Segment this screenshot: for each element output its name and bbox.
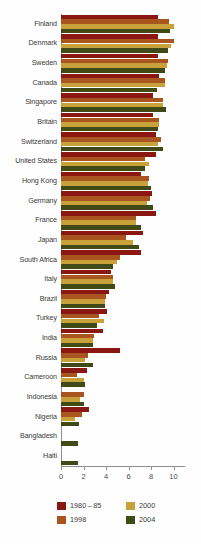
bar-group xyxy=(61,407,201,427)
x-tick xyxy=(84,466,85,470)
category-label: Switzerland xyxy=(0,138,57,146)
bar-row: Brazil xyxy=(0,289,201,309)
bar-2004 xyxy=(61,186,151,191)
bar-group xyxy=(61,387,201,407)
category-label: Britain xyxy=(0,118,57,126)
bar-group xyxy=(61,348,201,368)
bar-2004 xyxy=(61,29,170,34)
category-label: Russia xyxy=(0,354,57,362)
category-label: Sweden xyxy=(0,59,57,67)
bar-group xyxy=(61,328,201,348)
bar-group xyxy=(61,210,201,230)
bar-group xyxy=(61,14,201,34)
category-label: Japan xyxy=(0,236,57,244)
bar-row: Sweden xyxy=(0,53,201,73)
bar-row: Cameroon xyxy=(0,368,201,388)
bar-group xyxy=(61,250,201,270)
chart-legend: 1980 – 85 1998 2000 2004 xyxy=(57,500,201,534)
x-tick-label: 4 xyxy=(104,472,108,481)
bar-2004 xyxy=(61,88,157,93)
x-tick xyxy=(61,466,62,470)
legend-column-right: 2000 2004 xyxy=(126,500,155,528)
plot-area: FinlandDenmarkSwedenCanadaSingaporeBrita… xyxy=(0,14,201,466)
bar-row: Canada xyxy=(0,73,201,93)
category-label: Canada xyxy=(0,79,57,87)
legend-item: 1980 – 85 xyxy=(57,500,101,511)
category-label: South Africa xyxy=(0,256,57,264)
bar-row: South Africa xyxy=(0,250,201,270)
legend-label: 2000 xyxy=(139,502,155,510)
bar-row: Finland xyxy=(0,14,201,34)
bar-row: Italy xyxy=(0,269,201,289)
category-label: Denmark xyxy=(0,39,57,47)
category-label: United States xyxy=(0,157,57,165)
bar-group xyxy=(61,309,201,329)
bar-group xyxy=(61,53,201,73)
x-axis-line xyxy=(61,466,185,467)
category-label: Hong Kong xyxy=(0,177,57,185)
bar-2004 xyxy=(61,205,153,210)
bar-group xyxy=(61,230,201,250)
bar-2004 xyxy=(61,264,113,269)
category-label: Cameroon xyxy=(0,373,57,381)
bar-group xyxy=(61,269,201,289)
category-label: Indonesia xyxy=(0,393,57,401)
legend-item: 1998 xyxy=(57,514,101,525)
bar-2004 xyxy=(61,323,97,328)
legend-label: 1998 xyxy=(70,516,86,524)
bar-group xyxy=(61,151,201,171)
legend-label: 2004 xyxy=(139,516,155,524)
bar-row: Britain xyxy=(0,112,201,132)
bar-row: France xyxy=(0,210,201,230)
x-tick-label: 8 xyxy=(149,472,153,481)
bar-row: India xyxy=(0,328,201,348)
bar-group xyxy=(61,112,201,132)
bar-2004 xyxy=(61,166,145,171)
bar-row: Hong Kong xyxy=(0,171,201,191)
bar-row: Singapore xyxy=(0,93,201,113)
bar-group xyxy=(61,191,201,211)
category-label: Italy xyxy=(0,275,57,283)
category-label: Nigeria xyxy=(0,413,57,421)
bar-row: Haiti xyxy=(0,446,201,466)
bar-group xyxy=(61,426,201,446)
x-axis: 0246810 xyxy=(0,466,201,490)
bar-2004 xyxy=(61,343,93,348)
category-label: Singapore xyxy=(0,98,57,106)
bar-2004 xyxy=(61,441,78,446)
category-label: Germany xyxy=(0,197,57,205)
bar-2004 xyxy=(61,304,105,309)
bar-2004 xyxy=(61,127,158,132)
bar-2004 xyxy=(61,382,85,387)
legend-swatch-icon xyxy=(126,516,135,524)
x-tick xyxy=(174,466,175,470)
category-label: Bangladesh xyxy=(0,432,57,440)
bar-row: Japan xyxy=(0,230,201,250)
bar-row: Switzerland xyxy=(0,132,201,152)
bar-row: Bangladesh xyxy=(0,426,201,446)
x-tick-label: 0 xyxy=(59,472,63,481)
legend-column-left: 1980 – 85 1998 xyxy=(57,500,101,528)
bar-group xyxy=(61,34,201,54)
x-tick xyxy=(106,466,107,470)
bar-2004 xyxy=(61,68,165,73)
bar-group xyxy=(61,368,201,388)
legend-swatch-icon xyxy=(126,502,135,510)
category-label: France xyxy=(0,216,57,224)
bar-row: Nigeria xyxy=(0,407,201,427)
bar-row: Turkey xyxy=(0,309,201,329)
bar-row: Russia xyxy=(0,348,201,368)
bar-row: Denmark xyxy=(0,34,201,54)
legend-swatch-icon xyxy=(57,516,66,524)
legend-item: 2000 xyxy=(126,500,155,511)
bar-2004 xyxy=(61,48,168,53)
bar-row: United States xyxy=(0,151,201,171)
bar-2004 xyxy=(61,147,163,152)
bar-2004 xyxy=(61,422,79,427)
bar-2004 xyxy=(61,107,166,112)
bar-group xyxy=(61,289,201,309)
bar-row: Germany xyxy=(0,191,201,211)
category-label: India xyxy=(0,334,57,342)
bar-group xyxy=(61,73,201,93)
x-tick xyxy=(129,466,130,470)
